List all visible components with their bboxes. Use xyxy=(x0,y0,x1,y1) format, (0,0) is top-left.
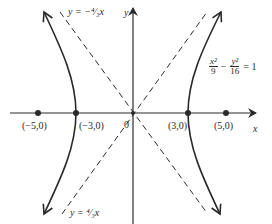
equation-term-y: y² 16 xyxy=(229,57,240,76)
equation-equals: = 1 xyxy=(243,62,256,72)
focus-point-left xyxy=(35,110,41,116)
origin-label: 0 xyxy=(124,120,129,130)
diagram-canvas xyxy=(0,0,272,224)
equation-term-x: x² 9 xyxy=(209,57,218,76)
hyperbola-left-branch-upper xyxy=(44,12,76,113)
point-label-pos5: (5,0) xyxy=(214,121,233,131)
point-label-neg3: (−3,0) xyxy=(79,121,104,131)
equation-minus: − xyxy=(221,62,227,72)
point-label-pos3: (3,0) xyxy=(168,121,187,131)
hyperbola-equation: x² 9 − y² 16 = 1 xyxy=(209,57,256,76)
vertex-point-left xyxy=(73,110,79,116)
equation-term-y-denominator: 16 xyxy=(229,67,240,76)
lower-asymptote-label: y = ⁴⁄₃x xyxy=(70,208,99,218)
upper-asymptote-label: y = −⁴⁄₃x xyxy=(68,7,104,17)
hyperbola-left-branch-lower xyxy=(44,113,76,214)
y-axis-label: y xyxy=(124,8,128,18)
x-axis-label: x xyxy=(253,124,257,134)
point-label-neg5: (−5,0) xyxy=(22,121,47,131)
vertex-point-right xyxy=(185,110,191,116)
equation-term-x-denominator: 9 xyxy=(210,67,217,76)
origin-point xyxy=(131,111,135,115)
focus-point-right xyxy=(223,110,229,116)
hyperbola-diagram: y = −⁴⁄₃x y = ⁴⁄₃x y x 0 (−5,0) (−3,0) (… xyxy=(0,0,272,224)
